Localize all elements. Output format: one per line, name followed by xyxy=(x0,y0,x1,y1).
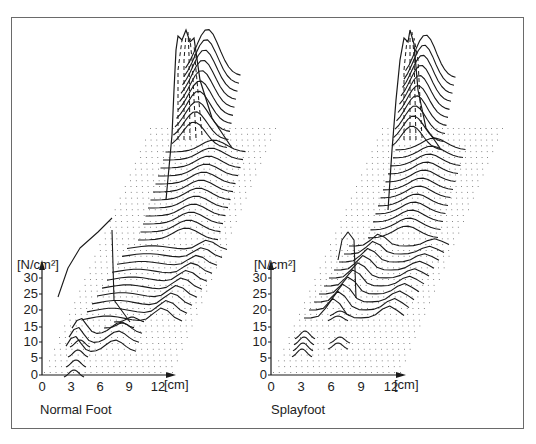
y-tick-label: 30 xyxy=(249,271,267,284)
x-tick-label: 3 xyxy=(61,380,81,393)
x-tick-label: 0 xyxy=(32,380,52,393)
x-tick-label: 9 xyxy=(119,380,139,393)
x-tick-label: 9 xyxy=(351,380,371,393)
y-tick-label: 10 xyxy=(249,335,267,348)
y-tick-label: 20 xyxy=(20,303,38,316)
x-tick-label: 0 xyxy=(261,380,281,393)
y-tick-label: 20 xyxy=(249,303,267,316)
y-tick-label: 10 xyxy=(20,335,38,348)
y-tick-label: 15 xyxy=(20,320,38,333)
pressure-profile-curves xyxy=(58,30,246,377)
splayfoot-plot xyxy=(268,30,503,378)
x-tick-label: 12 xyxy=(381,380,401,393)
dotted-base-plane xyxy=(273,128,503,373)
x-tick-label: 3 xyxy=(291,380,311,393)
normal-foot-plot xyxy=(39,30,276,378)
x-tick-label: 6 xyxy=(90,380,110,393)
y-tick-label: 25 xyxy=(249,287,267,300)
heel-peak-outline xyxy=(388,30,440,210)
y-tick-label: 25 xyxy=(20,287,38,300)
y-tick-label: 30 xyxy=(20,271,38,284)
x-tick-label: 6 xyxy=(321,380,341,393)
caption-normal-foot: Normal Foot xyxy=(40,402,112,417)
y-tick-label: 15 xyxy=(249,320,267,333)
x-tick-label: 12 xyxy=(148,380,168,393)
pressure-profile-curves xyxy=(292,32,466,357)
y-tick-label: 5 xyxy=(20,351,38,364)
caption-splayfoot: Splayfoot xyxy=(271,402,325,417)
y-tick-label: 5 xyxy=(249,351,267,364)
plots-canvas xyxy=(0,0,536,444)
